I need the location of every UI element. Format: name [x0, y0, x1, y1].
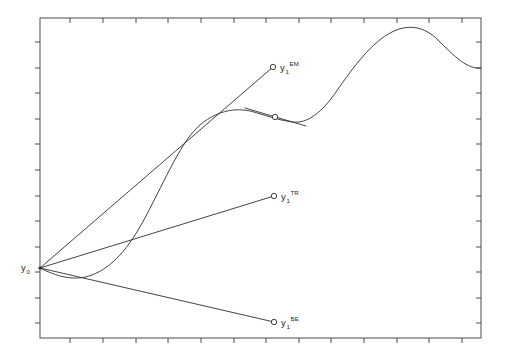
euler-method-step-line: [40, 67, 273, 268]
plot-canvas: y0y1EMy1TRy1BE: [0, 0, 508, 361]
plot-markers: [38, 64, 277, 324]
trapezoidal-rule-step-line: [40, 196, 274, 268]
backward-euler-endpoint-marker: [271, 319, 276, 324]
initial-point-marker: [38, 266, 41, 269]
trapezoidal-endpoint-marker: [271, 193, 276, 198]
label-trapezoidal-endpoint: y1TR: [281, 189, 299, 204]
axis-box-border: [40, 18, 481, 338]
label-euler-endpoint: y1EM: [280, 60, 299, 75]
plot-labels: y0y1EMy1TRy1BE: [21, 60, 299, 330]
label-y0: y0: [21, 262, 31, 275]
axis-frame: [40, 18, 481, 338]
euler-endpoint-marker: [270, 64, 275, 69]
ode-methods-figure: y0y1EMy1TRy1BE: [0, 0, 508, 361]
label-backward-euler-endpoint: y1BE: [281, 315, 299, 330]
axis-ticks: [35, 18, 481, 343]
backward-euler-step-line: [40, 268, 274, 322]
plot-series: [40, 27, 481, 322]
curve-sample-point-marker: [272, 114, 277, 119]
exact-solution-line: [40, 27, 481, 278]
